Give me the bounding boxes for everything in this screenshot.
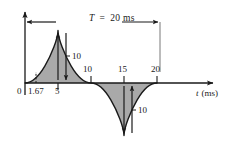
period-symbol: T [89, 13, 95, 23]
tick-label-1.67: 1.67 [28, 87, 44, 96]
waveform-figure: T=20 ms 10 10 0 1.67 5 10 15 20 t(ms) [0, 0, 236, 141]
tick-label-20: 20 [151, 65, 160, 74]
x-axis-unit: (ms) [202, 88, 219, 98]
amplitude-negative-label: 10 [138, 106, 147, 115]
period-equals: = [100, 13, 106, 23]
x-axis-symbol: t [196, 88, 199, 98]
x-axis-label: t(ms) [196, 89, 218, 98]
origin-label: 0 [17, 87, 22, 96]
amplitude-positive-label: 10 [72, 52, 81, 61]
tick-label-5: 5 [55, 87, 60, 96]
period-value: 20 ms [110, 13, 134, 23]
tick-label-15: 15 [118, 65, 127, 74]
tick-label-10: 10 [83, 65, 92, 74]
period-label: T=20 ms [89, 14, 135, 24]
